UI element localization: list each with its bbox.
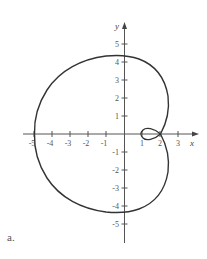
- svg-text:2: 2: [158, 139, 162, 148]
- svg-text:5: 5: [115, 40, 119, 49]
- y-axis-arrow-icon: [122, 22, 127, 29]
- x-tick-labels: -5 -4 -3 -2 -1 1 2 3: [29, 139, 180, 148]
- svg-text:-2: -2: [83, 139, 90, 148]
- svg-text:2: 2: [115, 94, 119, 103]
- svg-text:-1: -1: [101, 139, 108, 148]
- svg-text:-3: -3: [112, 184, 119, 193]
- figure-label: a.: [7, 231, 15, 243]
- x-axis-arrow-icon: [192, 132, 199, 137]
- svg-text:-3: -3: [65, 139, 72, 148]
- svg-text:-4: -4: [47, 139, 54, 148]
- svg-text:-5: -5: [112, 220, 119, 229]
- svg-text:-4: -4: [112, 202, 119, 211]
- svg-text:-1: -1: [112, 148, 119, 157]
- svg-text:3: 3: [115, 76, 119, 85]
- x-axis-label: x: [189, 138, 194, 148]
- svg-text:3: 3: [176, 139, 180, 148]
- svg-text:-2: -2: [112, 166, 119, 175]
- svg-text:1: 1: [115, 112, 119, 121]
- polar-curve-plot: -5 -4 -3 -2 -1 1 2 3 5 4 3 2 1 -1 -2 -3 …: [0, 0, 207, 259]
- svg-text:4: 4: [115, 58, 119, 67]
- svg-text:1: 1: [140, 139, 144, 148]
- y-axis-label: y: [114, 21, 119, 31]
